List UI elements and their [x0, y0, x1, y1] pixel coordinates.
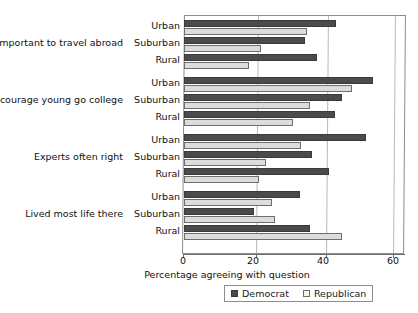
- bar-democrat: [184, 54, 317, 61]
- bar-democrat: [184, 37, 305, 44]
- y-axis-group-label: Experts often right: [34, 152, 123, 162]
- bar-democrat: [184, 168, 329, 175]
- y-axis-group-label: Important to travel abroad: [0, 38, 123, 48]
- bar-democrat: [184, 134, 366, 141]
- legend-label-democrat: Democrat: [242, 288, 289, 299]
- y-axis-sublabel: Rural: [155, 226, 180, 236]
- bar-republican: [184, 142, 301, 149]
- bar-democrat: [184, 94, 342, 101]
- dark-square-swatch-icon: [231, 290, 238, 297]
- bar-democrat: [184, 225, 310, 232]
- bar-republican: [184, 233, 342, 240]
- y-axis-sublabel: Rural: [155, 55, 180, 65]
- bar-democrat: [184, 20, 336, 27]
- legend-entry-democrat: Democrat: [231, 288, 289, 299]
- bar-republican: [184, 119, 293, 126]
- bar-democrat: [184, 191, 300, 198]
- y-axis-sublabel: Suburban: [134, 209, 180, 219]
- bar-republican: [184, 102, 310, 109]
- bar-republican: [184, 62, 249, 69]
- y-axis-sublabel: Suburban: [134, 38, 180, 48]
- x-axis-line: [183, 254, 405, 255]
- bar-democrat: [184, 111, 335, 118]
- legend-entry-republican: Republican: [303, 288, 366, 299]
- bar-democrat: [184, 77, 373, 84]
- x-tick-label: 60: [387, 255, 399, 266]
- y-axis-sublabel: Urban: [151, 192, 180, 202]
- y-axis-group-label: Lived most life there: [25, 209, 123, 219]
- bars-layer: [184, 16, 405, 253]
- bar-democrat: [184, 208, 254, 215]
- bar-republican: [184, 28, 307, 35]
- grouped-bar-chart: UrbanSuburbanRuralImportant to travel ab…: [0, 0, 418, 313]
- legend-label-republican: Republican: [314, 288, 366, 299]
- bar-republican: [184, 216, 275, 223]
- light-square-swatch-icon: [303, 290, 310, 297]
- y-axis-sublabel: Urban: [151, 135, 180, 145]
- y-axis-labels: UrbanSuburbanRuralImportant to travel ab…: [0, 0, 180, 239]
- x-tick-label: 20: [247, 255, 259, 266]
- bar-democrat: [184, 151, 312, 158]
- y-axis-sublabel: Rural: [155, 112, 180, 122]
- y-axis-sublabel: Urban: [151, 21, 180, 31]
- bar-republican: [184, 85, 352, 92]
- y-axis-sublabel: Rural: [155, 169, 180, 179]
- bar-republican: [184, 45, 261, 52]
- y-axis-sublabel: Suburban: [134, 152, 180, 162]
- bar-republican: [184, 199, 272, 206]
- y-axis-group-label: Encourage young go college: [0, 95, 123, 105]
- y-axis-sublabel: Urban: [151, 78, 180, 88]
- y-axis-sublabel: Suburban: [134, 95, 180, 105]
- bar-republican: [184, 176, 259, 183]
- x-axis-title: Percentage agreeing with question: [0, 269, 418, 280]
- x-tick-label: 0: [180, 255, 186, 266]
- x-tick-label: 40: [317, 255, 329, 266]
- chart-legend: Democrat Republican: [224, 285, 373, 302]
- bar-republican: [184, 159, 266, 166]
